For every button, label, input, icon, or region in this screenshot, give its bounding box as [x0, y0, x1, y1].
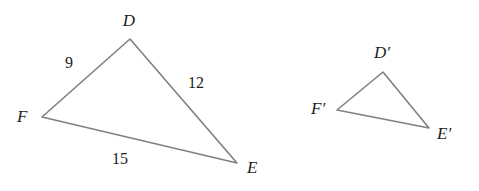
vertex-label-f: F — [16, 107, 28, 126]
figure-background — [0, 0, 479, 191]
vertex-label-e: E — [246, 158, 258, 177]
vertex-label-d-prime: D′ — [373, 43, 390, 62]
side-length-label-fe: 15 — [112, 150, 128, 167]
side-length-label-fd: 9 — [65, 54, 73, 71]
side-length-label-de: 12 — [188, 74, 204, 91]
vertex-label-f-prime: F′ — [310, 99, 325, 118]
vertex-label-e-prime: E′ — [436, 124, 451, 143]
vertex-label-d: D — [122, 11, 136, 30]
figure-canvas: D E F 9 12 15 D′ E′ F′ — [0, 0, 479, 191]
similar-triangles-figure: D E F 9 12 15 D′ E′ F′ — [0, 0, 479, 191]
